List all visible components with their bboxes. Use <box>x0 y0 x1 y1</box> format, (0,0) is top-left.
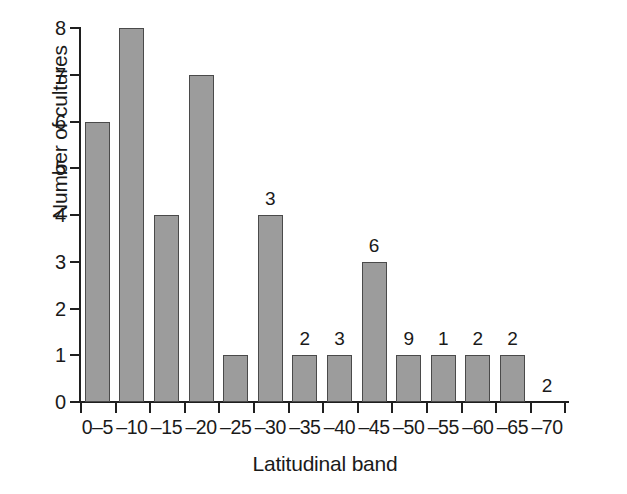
bar <box>154 215 179 402</box>
bar-value-label: 3 <box>320 329 360 348</box>
y-axis-tick <box>70 121 79 123</box>
bar <box>465 355 490 402</box>
x-axis-title: Latitudinal band <box>80 452 570 476</box>
y-axis-tick-label: 6 <box>20 112 66 132</box>
bar <box>223 355 248 402</box>
bar-value-label: 6 <box>354 236 394 255</box>
y-axis-tick-label: 1 <box>20 345 66 365</box>
bar <box>292 355 317 402</box>
y-axis-tick-label: 7 <box>20 65 66 85</box>
y-axis-tick <box>70 354 79 356</box>
x-axis-tick <box>80 403 82 413</box>
y-axis-tick <box>70 27 79 29</box>
x-axis-tick <box>218 403 220 413</box>
y-axis-tick <box>70 74 79 76</box>
bar <box>119 28 144 402</box>
y-axis-tick-label: 5 <box>20 158 66 178</box>
y-axis-line <box>79 27 81 403</box>
y-axis-tick-label: 2 <box>20 299 66 319</box>
x-axis-tick <box>115 403 117 413</box>
bar-value-label: 2 <box>493 329 533 348</box>
x-axis-tick <box>461 403 463 413</box>
y-axis-tick <box>70 308 79 310</box>
bar <box>362 262 387 402</box>
bar <box>189 75 214 402</box>
y-axis-tick-label: 0 <box>20 392 66 412</box>
bar <box>258 215 283 402</box>
x-axis-tick <box>149 403 151 413</box>
y-axis-tick-label: 4 <box>20 205 66 225</box>
x-axis-tick <box>184 403 186 413</box>
x-axis-tick <box>426 403 428 413</box>
x-axis-tick <box>322 403 324 413</box>
bar <box>396 355 421 402</box>
y-axis-tick <box>70 214 79 216</box>
x-axis-tick <box>253 403 255 413</box>
x-axis-tick <box>391 403 393 413</box>
bar-value-label: 2 <box>527 376 567 395</box>
bar <box>431 355 456 402</box>
x-axis-tick <box>357 403 359 413</box>
x-axis-tick <box>530 403 532 413</box>
y-axis-tick <box>70 167 79 169</box>
bar-chart: Number of cultures 012345678 0–5–10–15–2… <box>0 0 627 494</box>
x-axis-tick <box>564 403 566 413</box>
bar <box>85 122 110 403</box>
y-axis-tick <box>70 261 79 263</box>
bar <box>500 355 525 402</box>
x-axis-tick <box>288 403 290 413</box>
bar-value-label: 3 <box>250 189 290 208</box>
x-axis-tick <box>495 403 497 413</box>
bar <box>327 355 352 402</box>
y-axis-tick <box>70 401 79 403</box>
y-axis-ticks: 012345678 <box>12 0 66 494</box>
y-axis-tick-label: 8 <box>20 18 66 38</box>
x-axis-tick-label: –70 <box>520 418 574 438</box>
y-axis-tick-label: 3 <box>20 252 66 272</box>
